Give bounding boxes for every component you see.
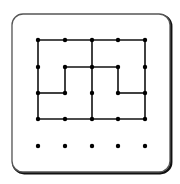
peg-dot [143, 144, 147, 148]
peg-dot [116, 117, 120, 121]
peg-dot [36, 65, 40, 69]
peg-dot [143, 38, 147, 42]
peg-dot [63, 91, 67, 95]
peg-dot [116, 144, 120, 148]
peg-dot [143, 91, 147, 95]
peg-dot [36, 117, 40, 121]
geoboard-diagram [0, 0, 180, 184]
peg-dot [90, 38, 94, 42]
peg-dot [63, 117, 67, 121]
peg-dot [116, 91, 120, 95]
peg-dot [90, 65, 94, 69]
peg-dot [90, 91, 94, 95]
peg-dot [63, 38, 67, 42]
peg-dot [116, 38, 120, 42]
peg-dot [143, 65, 147, 69]
peg-dot [36, 91, 40, 95]
peg-dot [36, 38, 40, 42]
geoboard [0, 0, 180, 184]
peg-dot [63, 144, 67, 148]
peg-dot [63, 65, 67, 69]
peg-dot [90, 117, 94, 121]
peg-dot [143, 117, 147, 121]
peg-dot [90, 144, 94, 148]
peg-dot [36, 144, 40, 148]
peg-dot [116, 65, 120, 69]
